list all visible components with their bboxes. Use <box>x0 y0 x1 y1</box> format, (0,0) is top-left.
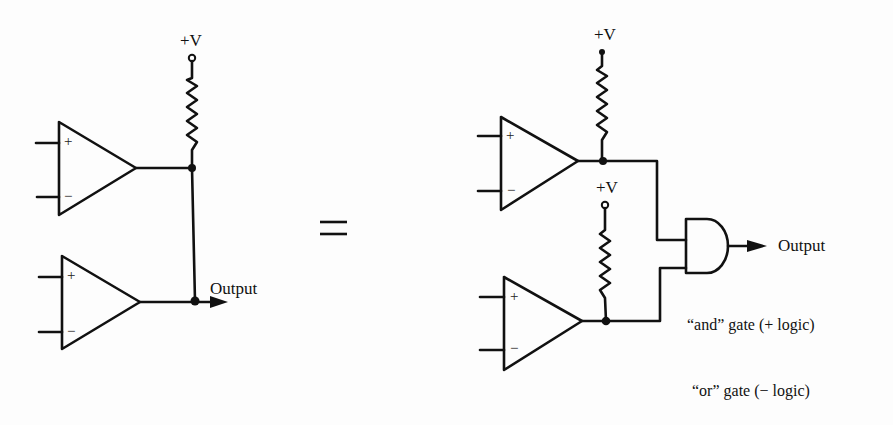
right-opamp-1-minus: − <box>507 183 515 198</box>
left-supply-label: +V <box>180 31 202 51</box>
left-opamp-1-minus: − <box>64 189 72 204</box>
right-opamp-1 <box>478 117 578 210</box>
right-wiring <box>578 157 686 325</box>
wired-and-diagram: +V + − + − Output +V +V + − + − Output “… <box>0 0 893 425</box>
right-opamp-1-plus: + <box>506 128 514 143</box>
left-pullup-resistor <box>187 55 197 168</box>
left-opamp-2 <box>39 256 140 349</box>
circuit-drawing <box>0 0 893 425</box>
left-opamp-2-plus: + <box>67 268 75 283</box>
equals-icon <box>320 222 347 234</box>
left-opamp-1 <box>36 122 136 215</box>
and-gate-icon <box>686 219 728 273</box>
left-output-label: Output <box>210 279 257 299</box>
right-output-label: Output <box>778 236 825 256</box>
right-supply-label-1: +V <box>594 25 616 45</box>
left-wiring <box>136 164 214 306</box>
and-gate-caption: “and” gate (+ logic) <box>687 316 815 334</box>
right-opamp-2-minus: − <box>510 341 518 356</box>
right-supply-label-2: +V <box>596 178 618 198</box>
right-output-arrow-icon <box>747 240 767 252</box>
right-pullup-resistor-2 <box>600 202 610 321</box>
or-gate-caption: “or” gate (− logic) <box>692 382 810 400</box>
right-opamp-2 <box>480 277 582 370</box>
left-opamp-1-plus: + <box>64 134 72 149</box>
right-opamp-2-plus: + <box>510 289 518 304</box>
left-opamp-2-minus: − <box>67 324 75 339</box>
right-pullup-resistor-1 <box>597 49 607 161</box>
